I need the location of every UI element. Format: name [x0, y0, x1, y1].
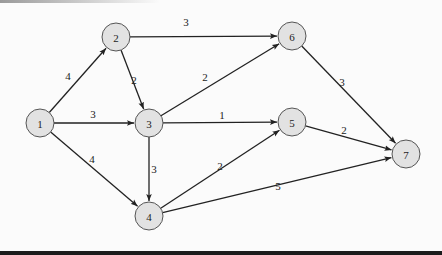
node-label: 2 [113, 32, 119, 44]
node-label: 5 [289, 117, 295, 129]
edge-2-to-6 [130, 36, 277, 37]
edge-weight-3-5: 1 [219, 109, 225, 121]
edge-weight-1-2: 4 [65, 70, 71, 82]
node-2: 2 [102, 23, 130, 51]
node-label: 6 [289, 31, 295, 43]
graph-canvas: 434322132532 1234567 [0, 0, 442, 255]
node-1: 1 [26, 109, 54, 137]
edge-weight-6-7: 3 [339, 76, 345, 88]
node-label: 3 [146, 118, 152, 130]
edge-3-to-6 [161, 44, 279, 116]
edge-weight-3-4: 3 [151, 163, 157, 175]
node-3: 3 [135, 109, 163, 137]
node-7: 7 [392, 140, 420, 168]
node-label: 4 [146, 211, 152, 223]
node-4: 4 [135, 202, 163, 230]
edge-weight-1-3: 3 [90, 108, 96, 120]
edge-weight-5-7: 2 [341, 124, 347, 136]
edge-1-to-2 [49, 48, 106, 112]
edge-weight-3-6: 2 [202, 71, 208, 83]
edge-weight-1-4: 4 [89, 153, 95, 165]
node-5: 5 [278, 108, 306, 136]
edge-3-to-5 [163, 122, 277, 123]
edge-weight-4-5: 2 [217, 160, 223, 172]
edge-1-to-4 [51, 132, 138, 206]
edge-weight-2-6: 3 [183, 16, 189, 28]
edge-weight-2-3: 2 [131, 74, 137, 86]
node-6: 6 [278, 22, 306, 50]
bottom-border [0, 251, 442, 255]
edge-5-to-7 [305, 126, 391, 150]
edge-weight-4-7: 5 [275, 180, 281, 192]
node-label: 7 [403, 149, 409, 161]
node-label: 1 [37, 118, 43, 130]
